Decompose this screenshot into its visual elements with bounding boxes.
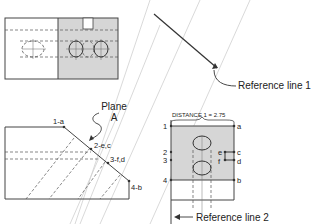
point-label-2ec: 2-e,c (94, 141, 111, 150)
left-point-3: 3 (163, 156, 167, 165)
right-point-c: c (237, 148, 241, 157)
plane-label-line2: A (111, 112, 118, 123)
technical-drawing: Reference line 1 Plane A 1-a 2-e,c 3-f,d… (0, 0, 314, 224)
distance-brace (171, 117, 234, 125)
point-label-3fd: 3-f,d (110, 155, 125, 164)
reference-line-2: Reference line 2 (174, 212, 269, 223)
right-point-a: a (237, 122, 242, 131)
right-point-e: e (218, 148, 222, 157)
right-point-b: b (237, 176, 241, 185)
left-point-4: 4 (163, 176, 167, 185)
distance-label: DISTANCE 1 = 2.75 (172, 112, 226, 118)
point-label-1a: 1-a (53, 117, 65, 126)
arrow-left-icon (174, 214, 180, 220)
right-point-d: d (237, 157, 241, 166)
reference-line-1: Reference line 1 (154, 14, 311, 91)
reference-line-2-label: Reference line 2 (196, 212, 269, 223)
top-view (5, 18, 118, 79)
point-label-4b: 4-b (131, 183, 142, 192)
reference-line-1-label: Reference line 1 (238, 80, 311, 91)
front-view: DISTANCE 1 = 2.75 1 2 3 4 a e c f d b (163, 112, 242, 224)
plane-label-line1: Plane (101, 101, 127, 112)
left-point-1: 1 (163, 122, 167, 131)
edge-view: 1-a 2-e,c 3-f,d 4-b (5, 117, 142, 199)
